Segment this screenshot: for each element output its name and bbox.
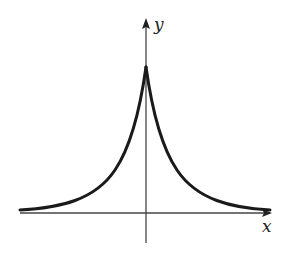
x-axis-label: x — [262, 216, 272, 236]
curve-right — [146, 67, 270, 210]
curve-left — [20, 67, 146, 210]
y-axis-label: y — [153, 14, 164, 34]
function-graph: y x — [0, 0, 288, 257]
